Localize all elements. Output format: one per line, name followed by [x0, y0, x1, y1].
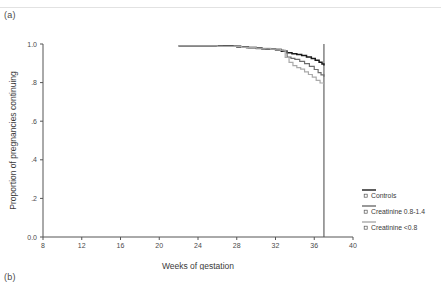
x-tick-label: 28 — [233, 242, 241, 249]
y-tick-label: .6 — [31, 118, 37, 125]
x-tick-label: 16 — [117, 242, 125, 249]
legend-label: Creatinine <0.8 — [371, 224, 418, 231]
x-tick-label: 36 — [310, 242, 318, 249]
y-tick-label: .8 — [31, 79, 37, 86]
x-tick-label: 24 — [194, 242, 202, 249]
x-tick-label: 40 — [349, 242, 357, 249]
x-tick-label: 20 — [155, 242, 163, 249]
x-tick-group: 81216202428323640 — [41, 237, 357, 249]
series-group — [179, 46, 324, 85]
series-line — [179, 46, 324, 77]
y-tick-label: 1.0 — [27, 41, 37, 48]
legend-marker — [364, 194, 367, 197]
legend-marker — [364, 226, 367, 229]
x-axis-title: Weeks of gestation — [162, 261, 234, 270]
series-line — [179, 46, 324, 66]
survival-chart: 0.0.2.4.6.81.0 81216202428323640 Weeks o… — [0, 20, 441, 270]
y-tick-label: 0.0 — [27, 234, 37, 241]
y-axis: 0.0.2.4.6.81.0 — [27, 41, 43, 241]
x-tick-label: 32 — [272, 242, 280, 249]
chart-canvas: 0.0.2.4.6.81.0 81216202428323640 Weeks o… — [0, 20, 441, 270]
y-tick-label: .2 — [31, 195, 37, 202]
y-tick-group: 0.0.2.4.6.81.0 — [27, 41, 43, 241]
x-tick-label: 8 — [41, 242, 45, 249]
y-axis-title: Proportion of pregnancies continuing — [8, 71, 18, 210]
series-line — [179, 46, 324, 85]
chart-legend: ControlsCreatinine 0.8-1.4Creatinine <0.… — [362, 190, 425, 231]
panel-a-label: (a) — [4, 10, 16, 20]
y-tick-label: .4 — [31, 156, 37, 163]
x-tick-label: 12 — [78, 242, 86, 249]
legend-label: Creatinine 0.8-1.4 — [371, 208, 425, 215]
legend-marker — [364, 210, 367, 213]
x-axis: 81216202428323640 — [41, 237, 357, 249]
legend-label: Controls — [371, 192, 397, 199]
plot-area — [179, 44, 324, 237]
header-divider — [0, 7, 441, 8]
panel-b-label: (b) — [4, 272, 16, 282]
